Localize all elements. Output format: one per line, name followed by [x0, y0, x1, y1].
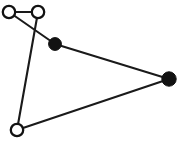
node-link-graph — [0, 0, 185, 150]
graph-node-E-hollow[interactable] — [11, 124, 23, 136]
figure-root — [0, 0, 185, 150]
graph-node-D-filled[interactable] — [162, 72, 176, 86]
graph-node-C-filled[interactable] — [49, 38, 62, 51]
graph-node-B-hollow[interactable] — [32, 6, 44, 18]
graph-node-A-hollow[interactable] — [3, 6, 15, 18]
